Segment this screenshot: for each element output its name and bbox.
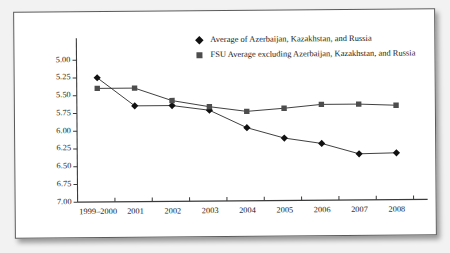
legend-item-series-1: Average of Azerbaijan, Kazakhstan, and R… xyxy=(192,31,427,46)
series-line xyxy=(97,86,396,112)
legend-item-series-2: FSU Average excluding Azerbaijan, Kazakh… xyxy=(192,46,427,61)
square-marker-icon xyxy=(192,52,205,58)
y-tick-label: 5.50 xyxy=(35,90,71,99)
y-tick-label: 7.00 xyxy=(36,197,72,206)
square-marker-icon xyxy=(281,106,286,111)
data-series-layer xyxy=(94,72,401,160)
legend-label-series-2: FSU Average excluding Azerbaijan, Kazakh… xyxy=(210,49,415,60)
y-tick-label: 6.75 xyxy=(35,179,71,188)
screenshot-root: 5.005.255.505.756.006.256.506.757.00 199… xyxy=(0,0,450,253)
square-marker-icon xyxy=(244,109,249,114)
diamond-marker-icon xyxy=(243,124,250,131)
y-tick-label: 6.50 xyxy=(35,161,71,170)
diamond-marker-icon xyxy=(355,150,362,157)
x-axis-line xyxy=(78,199,428,202)
y-tick-label: 5.00 xyxy=(34,55,70,64)
diamond-marker-icon xyxy=(281,134,288,141)
square-marker-icon xyxy=(319,102,324,107)
chart-legend: Average of Azerbaijan, Kazakhstan, and R… xyxy=(192,31,427,63)
y-tick-label: 5.75 xyxy=(35,108,71,117)
chart-card: 5.005.255.505.756.006.256.506.757.00 199… xyxy=(13,8,437,238)
x-tick-label: 2008 xyxy=(367,204,427,213)
y-tick-label: 5.25 xyxy=(35,72,71,81)
square-marker-icon xyxy=(393,103,398,108)
series-1 xyxy=(94,72,401,160)
y-axis-line xyxy=(76,38,77,202)
y-tick-label: 6.25 xyxy=(35,143,71,152)
series-2 xyxy=(95,83,399,115)
square-marker-icon xyxy=(95,86,100,91)
y-tick-label: 6.00 xyxy=(35,126,71,135)
legend-label-series-1: Average of Azerbaijan, Kazakhstan, and R… xyxy=(210,34,371,44)
square-marker-icon xyxy=(207,104,212,109)
square-marker-icon xyxy=(169,98,174,103)
square-marker-icon xyxy=(356,101,361,106)
diamond-marker-icon xyxy=(131,102,138,109)
series-line xyxy=(97,75,396,155)
square-marker-icon xyxy=(132,85,137,90)
diamond-marker-icon xyxy=(318,140,325,147)
diamond-marker-icon xyxy=(94,74,101,81)
diamond-marker-icon xyxy=(192,37,205,43)
diamond-marker-icon xyxy=(393,149,400,156)
